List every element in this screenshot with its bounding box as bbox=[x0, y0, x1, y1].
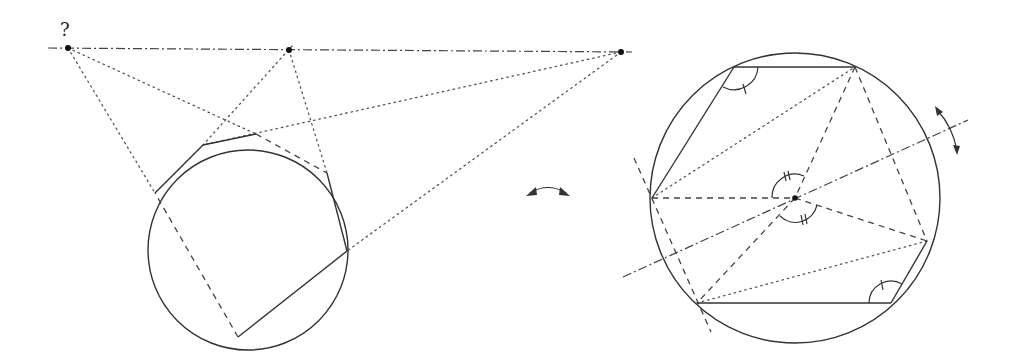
extension-ef-to-p3 bbox=[347, 52, 621, 251]
diagonal-b1-r bbox=[697, 241, 927, 303]
pascal-line bbox=[48, 48, 632, 52]
chord-l-b1-extended bbox=[634, 158, 711, 332]
side-fa bbox=[155, 193, 238, 337]
geometry-figure: ? bbox=[0, 0, 1015, 356]
right-symmetric-construction bbox=[623, 53, 968, 343]
radius-b1 bbox=[697, 198, 795, 303]
pascal-point-p1 bbox=[65, 45, 71, 51]
question-label: ? bbox=[60, 19, 70, 40]
side-t1-l bbox=[652, 67, 734, 198]
side-ef bbox=[238, 251, 347, 337]
pascal-point-p3 bbox=[618, 49, 624, 55]
extension-cd-to-p1 bbox=[68, 48, 256, 134]
side-ab bbox=[155, 145, 203, 193]
central-tick-lower-1 bbox=[801, 215, 803, 225]
side-de bbox=[327, 173, 347, 251]
angle-tick-b2 bbox=[881, 280, 883, 290]
swap-arrow-icon bbox=[526, 187, 570, 196]
angle-mark-t1 bbox=[723, 67, 758, 90]
extension-de-to-p2 bbox=[289, 50, 327, 173]
left-pascal-construction: ? bbox=[48, 19, 632, 350]
central-angle-mark-upper bbox=[772, 174, 804, 198]
center-point bbox=[792, 195, 798, 201]
extension-bc-to-p3 bbox=[203, 52, 621, 145]
diagonal-l-t2 bbox=[652, 67, 855, 198]
side-b2-r bbox=[891, 241, 927, 303]
pascal-point-p2 bbox=[286, 47, 292, 53]
radius-t2 bbox=[795, 67, 855, 198]
angle-tick-t1 bbox=[743, 84, 746, 94]
chord-t2-r bbox=[855, 67, 927, 241]
radius-r bbox=[795, 198, 927, 241]
left-circle bbox=[148, 150, 348, 350]
rotation-arrow-icon bbox=[935, 106, 960, 155]
extension-fa-to-p1 bbox=[68, 48, 155, 193]
